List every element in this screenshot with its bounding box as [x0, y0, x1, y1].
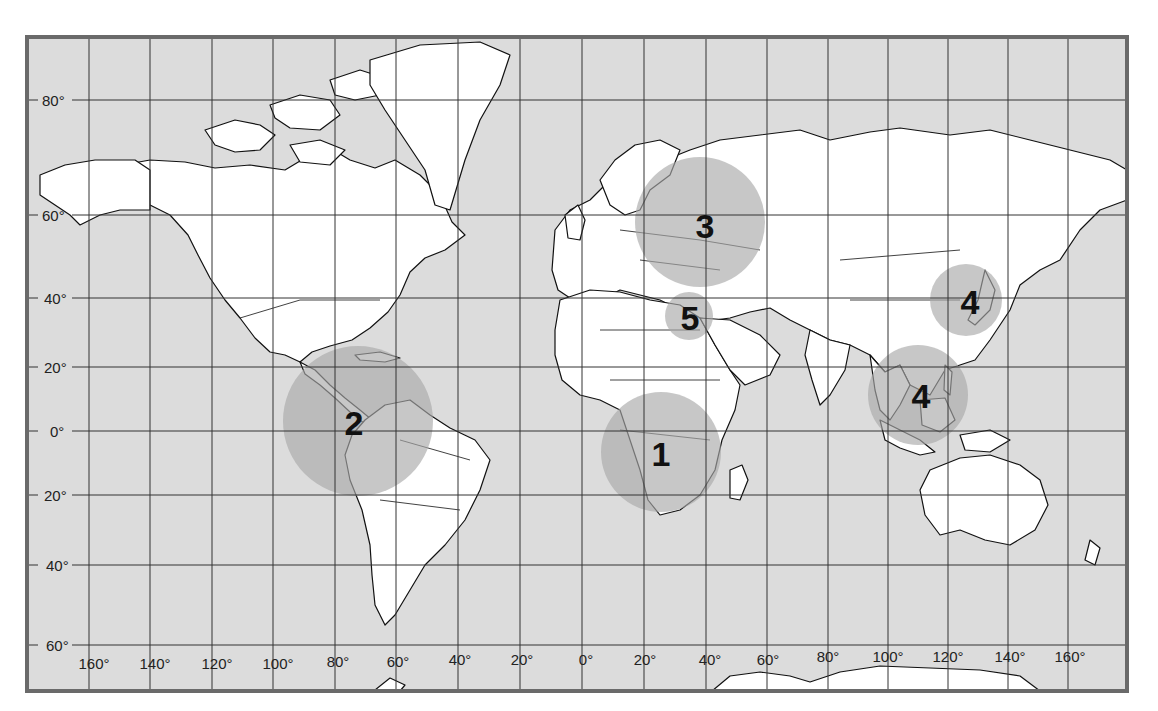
lon-label-100e: 100°: [872, 648, 903, 665]
lon-label-20e: 20°: [634, 651, 657, 668]
lon-label-20w: 20°: [511, 651, 534, 668]
lat-label-0: 0°: [50, 423, 64, 440]
marker-label-1: 1: [652, 435, 671, 473]
lat-label-80: 80°: [42, 92, 65, 109]
lon-label-140w: 140°: [139, 655, 170, 672]
lat-label-minus60: 60°: [46, 637, 69, 654]
lon-label-100w: 100°: [262, 655, 293, 672]
marker-label-3: 3: [696, 207, 715, 245]
lat-label-40: 40°: [44, 290, 67, 307]
lon-label-120e: 120°: [932, 648, 963, 665]
marker-label-2: 2: [345, 404, 364, 442]
lon-label-160e: 160°: [1054, 648, 1085, 665]
world-map: 80° 60° 40° 20° 0° 20° 40° 60° 160° 140°…: [0, 0, 1158, 711]
lon-label-0: 0°: [579, 651, 593, 668]
lon-label-60w: 60°: [387, 653, 410, 670]
lon-label-160w: 160°: [78, 655, 109, 672]
lon-label-40w: 40°: [449, 651, 472, 668]
marker-label-4a: 4: [961, 283, 980, 321]
lat-label-minus40: 40°: [46, 557, 69, 574]
lon-label-140e: 140°: [994, 648, 1025, 665]
lon-label-60e: 60°: [757, 651, 780, 668]
lat-label-20: 20°: [44, 359, 67, 376]
lon-label-80e: 80°: [817, 648, 840, 665]
lon-label-80w: 80°: [327, 653, 350, 670]
lon-label-120w: 120°: [201, 655, 232, 672]
marker-label-4b: 4: [912, 377, 931, 415]
lat-label-minus20: 20°: [44, 487, 67, 504]
lon-label-40e: 40°: [699, 651, 722, 668]
marker-label-5: 5: [681, 299, 700, 337]
lat-label-60: 60°: [42, 207, 65, 224]
